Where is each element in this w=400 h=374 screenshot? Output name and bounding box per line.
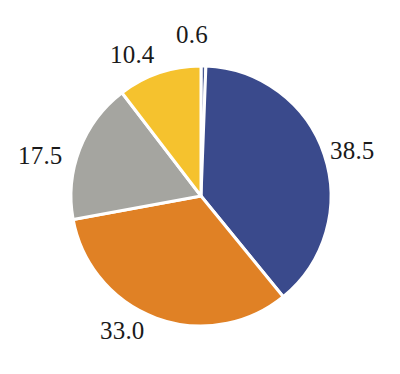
pie-slice-label-2: 33.0	[100, 318, 145, 343]
pie-chart: 0.6 38.5 33.0 17.5 10.4	[0, 0, 400, 374]
pie-chart-canvas	[0, 0, 400, 374]
pie-slices-group	[71, 66, 331, 326]
pie-slice-label-1: 38.5	[330, 138, 375, 163]
pie-slice-label-4: 10.4	[110, 42, 155, 67]
pie-slice-label-3: 17.5	[18, 143, 63, 168]
pie-slice-label-0: 0.6	[176, 22, 208, 47]
